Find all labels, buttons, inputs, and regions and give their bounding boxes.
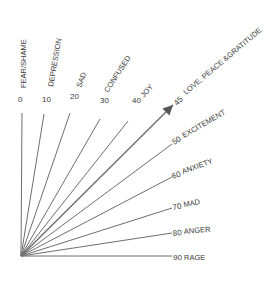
emotion-label: DEPRESSION xyxy=(46,37,63,87)
scale-value: 60 xyxy=(171,169,183,181)
scale-value: 20 xyxy=(70,92,79,101)
scale-ray-90: 90RAGE xyxy=(21,253,205,262)
emotion-label: LOVE, PEACE &GRATITUDE xyxy=(182,26,264,97)
scale-value: 90 xyxy=(173,253,182,262)
fan-canvas: 0FEAR/SHAME10DEPRESSION20SAD30CONFUSED40… xyxy=(0,0,278,283)
emotion-label: ANGER xyxy=(183,225,211,236)
emotional-scale-diagram: 0FEAR/SHAME10DEPRESSION20SAD30CONFUSED40… xyxy=(0,0,278,283)
scale-value: 30 xyxy=(100,96,109,105)
scale-value: 50 xyxy=(171,134,184,147)
emotion-label: CONFUSED xyxy=(102,53,133,94)
scale-value: 45 xyxy=(172,94,185,107)
scale-value: 10 xyxy=(42,95,51,104)
scale-ray-70: 70MAD xyxy=(21,197,201,256)
ray-line xyxy=(21,208,172,256)
emotion-label: RAGE xyxy=(184,253,205,262)
emotion-label: FEAR/SHAME xyxy=(19,39,28,88)
emotion-label: SAD xyxy=(74,71,88,89)
emotion-label: MAD xyxy=(183,197,202,209)
emotion-label: ANXIETY xyxy=(181,156,214,175)
ray-line xyxy=(21,113,22,256)
scale-ray-20: 20SAD xyxy=(21,71,88,256)
scale-value: 70 xyxy=(172,201,183,212)
scale-value: 80 xyxy=(172,228,182,238)
scale-value: 0 xyxy=(18,95,23,104)
scale-value: 40 xyxy=(132,96,141,105)
emotion-label: JOY xyxy=(139,82,155,99)
ray-line xyxy=(21,105,173,256)
origin-point xyxy=(20,251,26,257)
scale-ray-80: 80ANGER xyxy=(21,225,211,256)
scale-ray-40: 40JOY xyxy=(21,82,155,256)
ray-line xyxy=(21,114,44,256)
emotion-label: EXCITEMENT xyxy=(181,108,228,140)
